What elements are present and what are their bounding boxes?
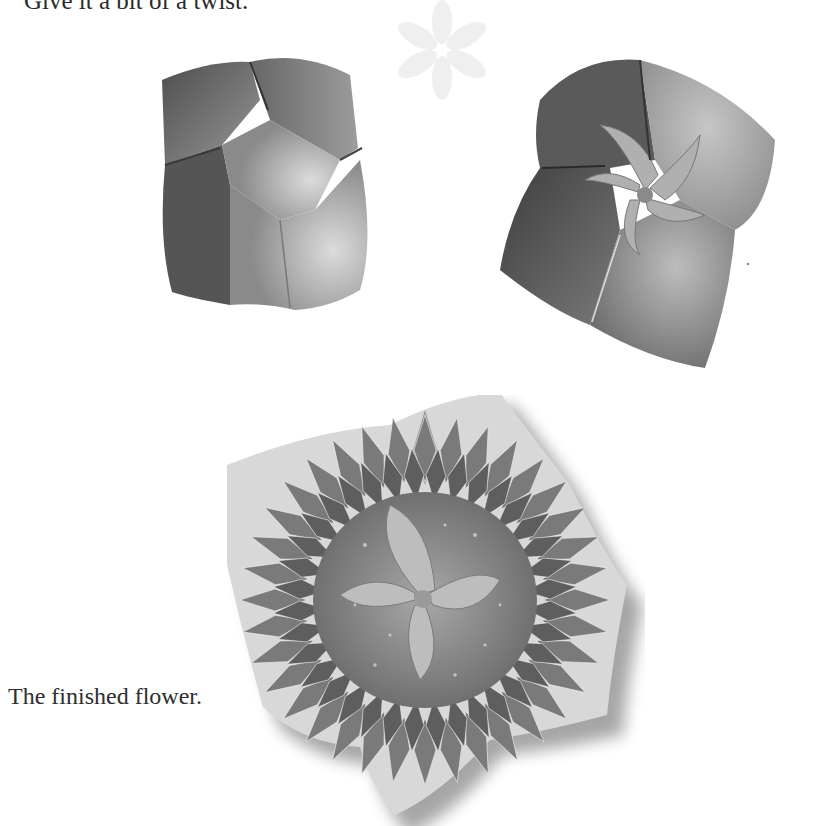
instruction-text: Give it a bit of a twist. [24, 0, 248, 15]
flower-watermark-icon [395, 0, 490, 100]
figure-caption: The finished flower. [8, 682, 202, 710]
finished-flower-figure [215, 395, 645, 826]
step-a-figure [150, 40, 375, 310]
step-b-figure [480, 40, 800, 370]
